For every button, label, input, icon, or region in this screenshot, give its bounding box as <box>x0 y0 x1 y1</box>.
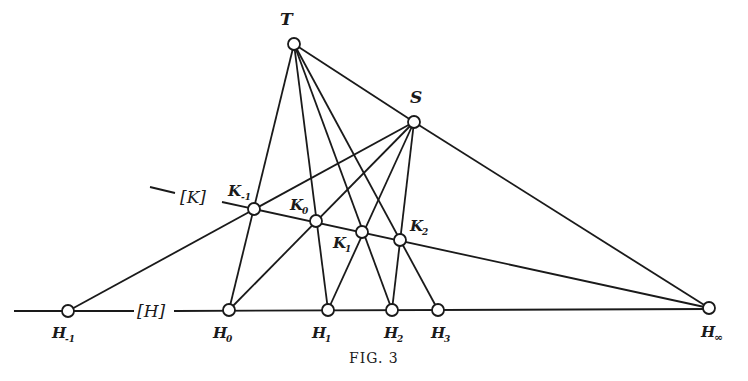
label-line-h: [H] <box>137 301 165 321</box>
point-h-minus1 <box>62 305 74 317</box>
svg-text:K: K <box>227 182 242 200</box>
point-s <box>408 116 420 128</box>
label-t: T <box>280 9 294 29</box>
point-t <box>288 38 300 50</box>
svg-text:0: 0 <box>302 206 309 216</box>
lines-from-t <box>229 44 709 310</box>
label-k1: K 1 <box>332 234 351 254</box>
point-k1 <box>356 226 368 238</box>
label-k-minus1: K -1 <box>227 182 251 202</box>
svg-text:∞: ∞ <box>714 331 723 344</box>
label-h0: H 0 <box>212 324 233 344</box>
svg-text:2: 2 <box>396 334 403 344</box>
line-h-axis <box>14 309 709 311</box>
label-h-infinity: H ∞ <box>700 323 723 344</box>
point-k0 <box>310 215 322 227</box>
svg-text:-1: -1 <box>241 192 251 202</box>
point-h-infinity <box>703 302 715 314</box>
label-h1: H 1 <box>311 324 331 344</box>
lines-from-s <box>68 122 414 311</box>
label-h3: H 3 <box>430 324 450 344</box>
svg-text:2: 2 <box>421 227 428 237</box>
svg-text:1: 1 <box>345 244 351 254</box>
label-h2: H 2 <box>383 324 403 344</box>
figure-caption: FIG. 3 <box>349 350 399 366</box>
svg-text:-1: -1 <box>65 334 75 344</box>
point-k-minus1 <box>248 203 260 215</box>
label-line-k: [K] <box>180 187 206 207</box>
point-k2 <box>394 234 406 246</box>
label-h-minus1: H -1 <box>51 324 75 344</box>
label-s: S <box>410 87 422 107</box>
point-h2 <box>386 304 398 316</box>
label-k0: K 0 <box>289 196 309 216</box>
point-h3 <box>432 304 444 316</box>
svg-text:1: 1 <box>325 334 331 344</box>
point-h0 <box>223 304 235 316</box>
point-h1 <box>322 304 334 316</box>
label-k2: K 2 <box>409 217 428 237</box>
projective-diagram: T S [K] [H] K -1 K 0 K 1 K 2 H -1 H 0 H … <box>0 0 748 381</box>
svg-text:3: 3 <box>444 334 450 344</box>
svg-text:0: 0 <box>226 334 233 344</box>
